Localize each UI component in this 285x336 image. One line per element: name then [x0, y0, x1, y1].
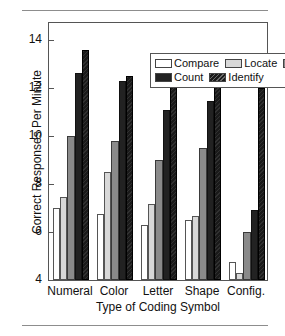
legend-label: Compare — [174, 57, 219, 69]
bar-numeral-count — [75, 73, 82, 280]
x-tick-label-letter: Letter — [143, 284, 174, 298]
bar-numeral-compare — [53, 208, 60, 280]
y-tick-label: 4 — [35, 272, 42, 287]
legend-item-locate[interactable]: Locate — [225, 57, 277, 69]
bar-color-count — [119, 81, 126, 280]
bar-numeral-identify — [82, 50, 89, 280]
legend-item-count[interactable]: Count — [155, 71, 203, 83]
bar-color-compare — [97, 214, 104, 280]
x-tick-label-numeral: Numeral — [47, 284, 92, 298]
bar-config-verify — [243, 232, 250, 280]
legend-row: CompareLocateVerify — [155, 56, 285, 70]
bar-letter-locate — [148, 204, 155, 280]
bar-shape-verify — [199, 148, 206, 280]
bar-color-identify — [126, 76, 133, 280]
bar-config-identify — [258, 88, 265, 280]
legend-label: Identify — [228, 71, 263, 83]
bar-color-locate — [104, 172, 111, 280]
legend-label: Count — [174, 71, 203, 83]
x-tick-label-color: Color — [100, 284, 129, 298]
figure-container: 468101214 Correct Responses Per Minute C… — [0, 0, 285, 336]
legend-item-compare[interactable]: Compare — [155, 57, 219, 69]
legend-swatch-compare-icon — [155, 59, 172, 68]
bar-config-locate — [236, 273, 243, 280]
bar-config-count — [251, 210, 258, 280]
legend-swatch-verify-icon — [283, 59, 285, 68]
x-tick-label-shape: Shape — [185, 284, 220, 298]
legend-swatch-identify-icon — [209, 73, 226, 82]
chart-legend: CompareLocateVerifyCountIdentify — [150, 53, 285, 88]
bar-shape-locate — [192, 216, 199, 280]
y-tick-label: 14 — [29, 32, 42, 47]
bar-numeral-locate — [60, 197, 67, 280]
bar-letter-identify — [170, 64, 177, 280]
x-tick-label-config: Config. — [227, 284, 265, 298]
bar-letter-compare — [141, 225, 148, 280]
y-axis-title: Correct Responses Per Minute — [30, 69, 44, 233]
legend-row: CountIdentify — [155, 70, 285, 84]
bottom-divider-rule — [22, 325, 268, 326]
bar-config-compare — [229, 262, 236, 280]
top-divider-rule — [22, 10, 268, 11]
bar-color-verify — [111, 141, 118, 280]
bar-shape-count — [207, 101, 214, 280]
legend-swatch-locate-icon — [225, 59, 242, 68]
legend-item-verify[interactable]: Verify — [283, 57, 285, 69]
bar-shape-compare — [185, 220, 192, 280]
plot-area: 468101214 Correct Responses Per Minute C… — [48, 22, 268, 281]
legend-label: Locate — [244, 57, 277, 69]
legend-swatch-count-icon — [155, 73, 172, 82]
bar-letter-count — [163, 110, 170, 280]
legend-item-identify[interactable]: Identify — [209, 71, 263, 83]
bar-numeral-verify — [67, 136, 74, 280]
bar-shape-identify — [214, 77, 221, 280]
bar-letter-verify — [155, 160, 162, 280]
y-tick-mark — [49, 280, 54, 281]
x-axis-title: Type of Coding Symbol — [48, 300, 268, 314]
